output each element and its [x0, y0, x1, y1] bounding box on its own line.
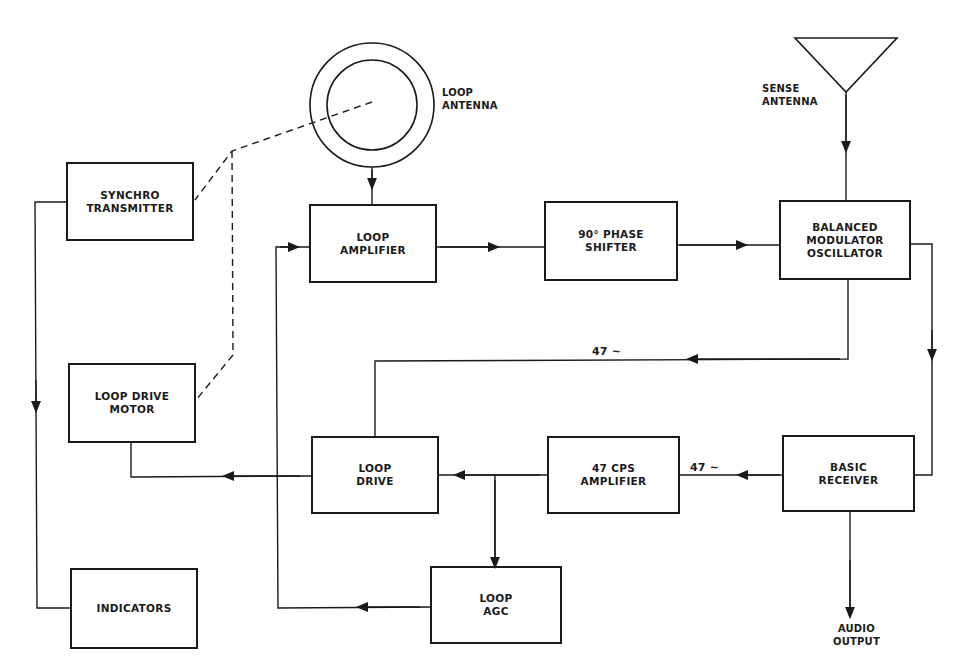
signal-47-mid-label: 47 ∼ — [690, 462, 719, 475]
synchro-transmitter-block: SYNCHRO TRANSMITTER — [66, 162, 194, 241]
basic-receiver-label: BASIC RECEIVER — [819, 461, 879, 487]
loop-drive-motor-block: LOOP DRIVE MOTOR — [68, 363, 196, 443]
loop-agc-label: LOOP AGC — [479, 592, 512, 618]
phase-shifter-label: 90° PHASE SHIFTER — [578, 228, 644, 254]
balanced-modulator-block: BALANCED MODULATOR OSCILLATOR — [779, 200, 911, 280]
audio-output-label: AUDIO OUTPUT — [833, 623, 880, 648]
basic-receiver-block: BASIC RECEIVER — [782, 435, 915, 512]
indicators-label: INDICATORS — [96, 602, 171, 615]
loop-agc-block: LOOP AGC — [430, 566, 562, 644]
loop-antenna-label: LOOP ANTENNA — [442, 87, 498, 112]
phase-shifter-block: 90° PHASE SHIFTER — [544, 201, 678, 281]
loop-drive-label: LOOP DRIVE — [356, 462, 394, 488]
loop-amplifier-label: LOOP AMPLIFIER — [340, 231, 406, 257]
cps-amplifier-label: 47 CPS AMPLIFIER — [581, 462, 647, 488]
cps-amplifier-block: 47 CPS AMPLIFIER — [547, 436, 680, 514]
signal-47-top-label: 47 ∼ — [592, 346, 621, 359]
sense-antenna-label: SENSE ANTENNA — [762, 83, 818, 108]
loop-amplifier-block: LOOP AMPLIFIER — [309, 204, 437, 283]
synchro-transmitter-label: SYNCHRO TRANSMITTER — [86, 189, 173, 215]
loop-antenna-icon — [310, 43, 434, 167]
loop-drive-motor-label: LOOP DRIVE MOTOR — [95, 390, 170, 416]
balanced-modulator-label: BALANCED MODULATOR OSCILLATOR — [806, 221, 884, 260]
loop-drive-block: LOOP DRIVE — [311, 436, 439, 514]
indicators-block: INDICATORS — [70, 568, 198, 649]
